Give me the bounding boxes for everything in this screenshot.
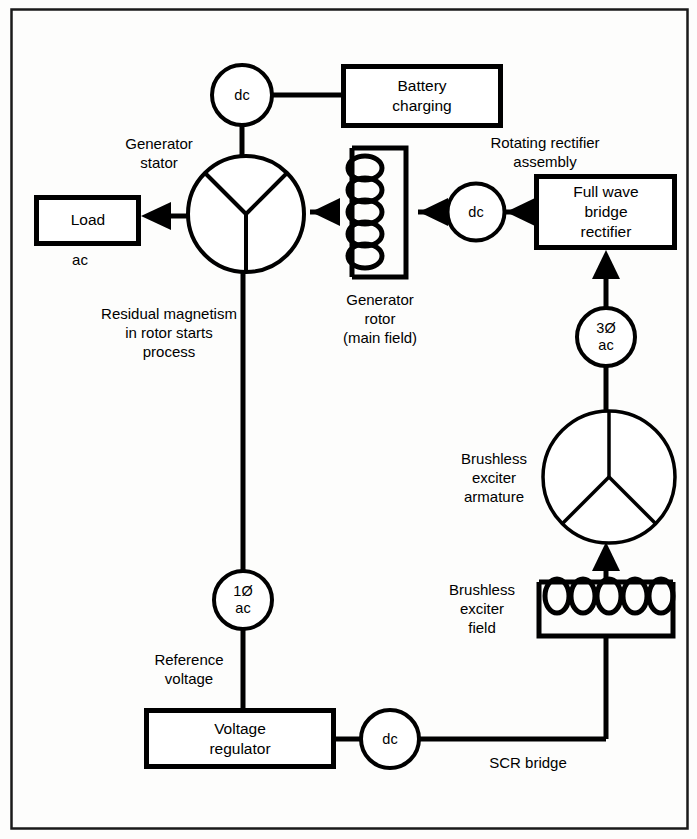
residual-magnetism-label: Residual magnetism in rotor starts proce… [69, 304, 269, 361]
reference-voltage-label: Reference voltage [134, 650, 244, 688]
node-3phase-ac-label: 3Ø ac [579, 320, 633, 354]
diagram-canvas [0, 0, 697, 839]
brushless-exciter-armature-label: Brushless exciter armature [442, 449, 546, 506]
arrowhead-to-stator [311, 198, 340, 226]
generator-stator-symbol[interactable] [188, 156, 304, 272]
brushless-exciter-armature-symbol[interactable] [543, 411, 675, 543]
brushless-generator-diagram: Battery charging Load Full wave bridge r… [0, 0, 697, 839]
battery-charging-label: Battery charging [347, 76, 497, 116]
voltage-regulator-label: Voltage regulator [149, 719, 331, 759]
arrowhead-to-load [141, 202, 171, 230]
load-label: Load [40, 210, 136, 230]
scr-bridge-label: SCR bridge [468, 753, 588, 772]
arrowhead-to-rotor [419, 198, 448, 226]
brushless-exciter-field-coil-symbol[interactable] [539, 579, 673, 636]
generator-rotor-coil-symbol[interactable] [348, 148, 406, 277]
generator-rotor-label: Generator rotor (main field) [315, 290, 445, 347]
full-wave-bridge-rectifier-label: Full wave bridge rectifier [539, 182, 673, 242]
rotating-rectifier-assembly-label: Rotating rectifier assembly [465, 133, 625, 171]
node-1phase-ac-label: 1Ø ac [216, 583, 270, 617]
node-dc-battery-charging-label: dc [214, 87, 270, 104]
arrowhead-to-dc-node [506, 198, 535, 226]
node-dc-rotating-rectifier-label: dc [449, 204, 503, 221]
generator-stator-label: Generator stator [99, 134, 219, 172]
brushless-exciter-field-label: Brushless exciter field [430, 580, 534, 637]
node-dc-scr-label: dc [363, 731, 417, 748]
arrowhead-to-rectifier [592, 250, 620, 279]
load-ac-label: ac [53, 250, 107, 269]
arrowhead-to-armature [592, 542, 620, 571]
